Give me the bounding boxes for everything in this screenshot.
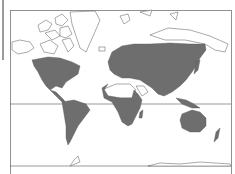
- region-se-asia-islands: [176, 98, 200, 108]
- region-australia: [180, 110, 206, 132]
- region-new-zealand: [214, 128, 220, 142]
- region-south-america: [62, 100, 90, 145]
- unshaded-land: [12, 10, 231, 166]
- world-map: [0, 0, 235, 174]
- region-north-america: [32, 57, 80, 90]
- region-madagascar: [139, 110, 143, 118]
